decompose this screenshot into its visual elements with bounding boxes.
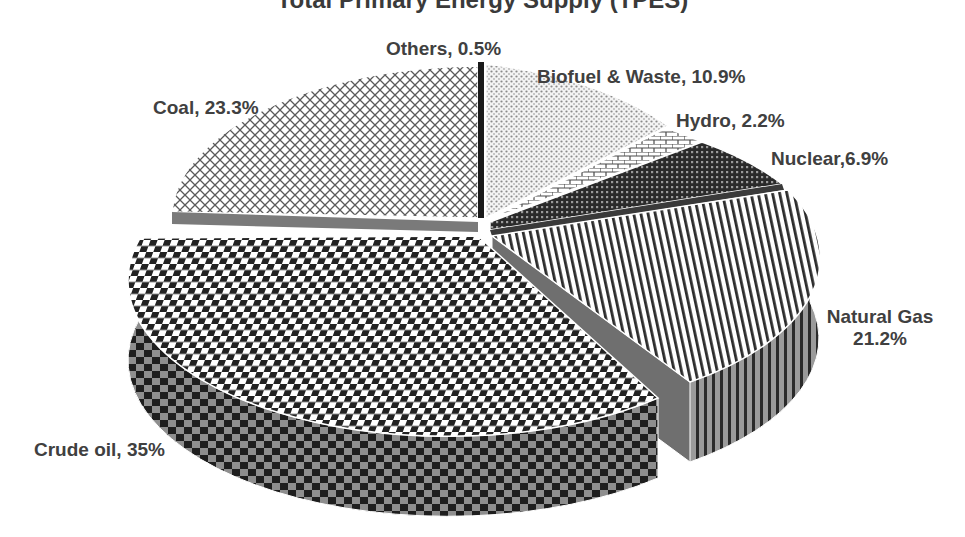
slice-others[interactable] xyxy=(478,62,484,218)
label-natural-gas-value: 21.2% xyxy=(815,328,945,350)
label-nuclear: Nuclear,6.9% xyxy=(771,148,888,170)
label-others: Others, 0.5% xyxy=(386,38,501,60)
label-coal: Coal, 23.3% xyxy=(153,97,259,119)
label-natural-gas-name: Natural Gas xyxy=(815,306,945,328)
label-hydro: Hydro, 2.2% xyxy=(676,110,785,132)
label-natural-gas: Natural Gas 21.2% xyxy=(815,306,945,350)
label-biofuel-waste: Biofuel & Waste, 10.9% xyxy=(537,66,745,88)
slice-coal[interactable] xyxy=(172,66,478,232)
label-crude-oil: Crude oil, 35% xyxy=(34,439,165,461)
